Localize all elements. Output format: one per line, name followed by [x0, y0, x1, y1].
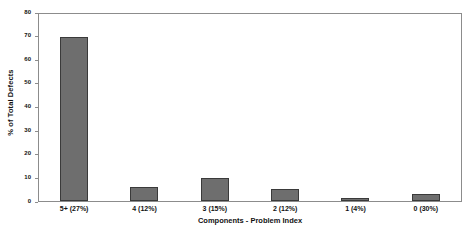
bar[interactable] — [341, 198, 369, 202]
y-axis-title-text: % of Total Defects — [6, 69, 15, 135]
bar-slot — [39, 14, 109, 201]
bar[interactable] — [130, 187, 158, 201]
y-axis-tick-mark — [35, 107, 38, 108]
bar[interactable] — [412, 194, 440, 201]
x-axis-title: Components - Problem Index — [38, 216, 462, 225]
bar-slot — [320, 14, 390, 201]
y-axis-tick-mark — [35, 60, 38, 61]
x-axis-tick-label: 1 (4%) — [316, 205, 396, 212]
x-axis-tick-label: 0 (30%) — [386, 205, 466, 212]
y-axis-tick-label: 40 — [24, 103, 31, 109]
y-axis-tick-mark — [35, 36, 38, 37]
bars-layer — [39, 14, 461, 201]
y-axis-tick-mark — [35, 202, 38, 203]
x-axis-tick-label: 3 (15%) — [175, 205, 255, 212]
x-axis-tick-label: 4 (12%) — [105, 205, 185, 212]
y-axis-tick-label: 0 — [28, 198, 31, 204]
y-axis-tick-label: 50 — [24, 79, 31, 85]
bar[interactable] — [60, 37, 88, 201]
y-axis-tick-label: 20 — [24, 150, 31, 156]
x-axis-tick-label: 5+ (27%) — [34, 205, 114, 212]
y-axis-tick-label: 70 — [24, 32, 31, 38]
y-axis-tick-label: 30 — [24, 127, 31, 133]
y-axis-tick-mark — [35, 154, 38, 155]
y-axis-tick-mark — [35, 131, 38, 132]
y-axis-tick-mark — [35, 178, 38, 179]
bar[interactable] — [271, 189, 299, 201]
y-axis-tick-mark — [35, 13, 38, 14]
x-axis-tick-label: 2 (12%) — [245, 205, 325, 212]
bar-chart: % of Total Defects 01020304050607080 5+ … — [0, 0, 470, 235]
y-axis-tick-label: 80 — [24, 9, 31, 15]
y-axis-tick-label: 60 — [24, 56, 31, 62]
bar-slot — [109, 14, 179, 201]
y-axis-tick-mark — [35, 83, 38, 84]
bar-slot — [180, 14, 250, 201]
y-axis-title: % of Total Defects — [2, 0, 18, 205]
bar[interactable] — [201, 178, 229, 201]
y-axis-tick-label: 10 — [24, 174, 31, 180]
bar-slot — [391, 14, 461, 201]
bar-slot — [250, 14, 320, 201]
